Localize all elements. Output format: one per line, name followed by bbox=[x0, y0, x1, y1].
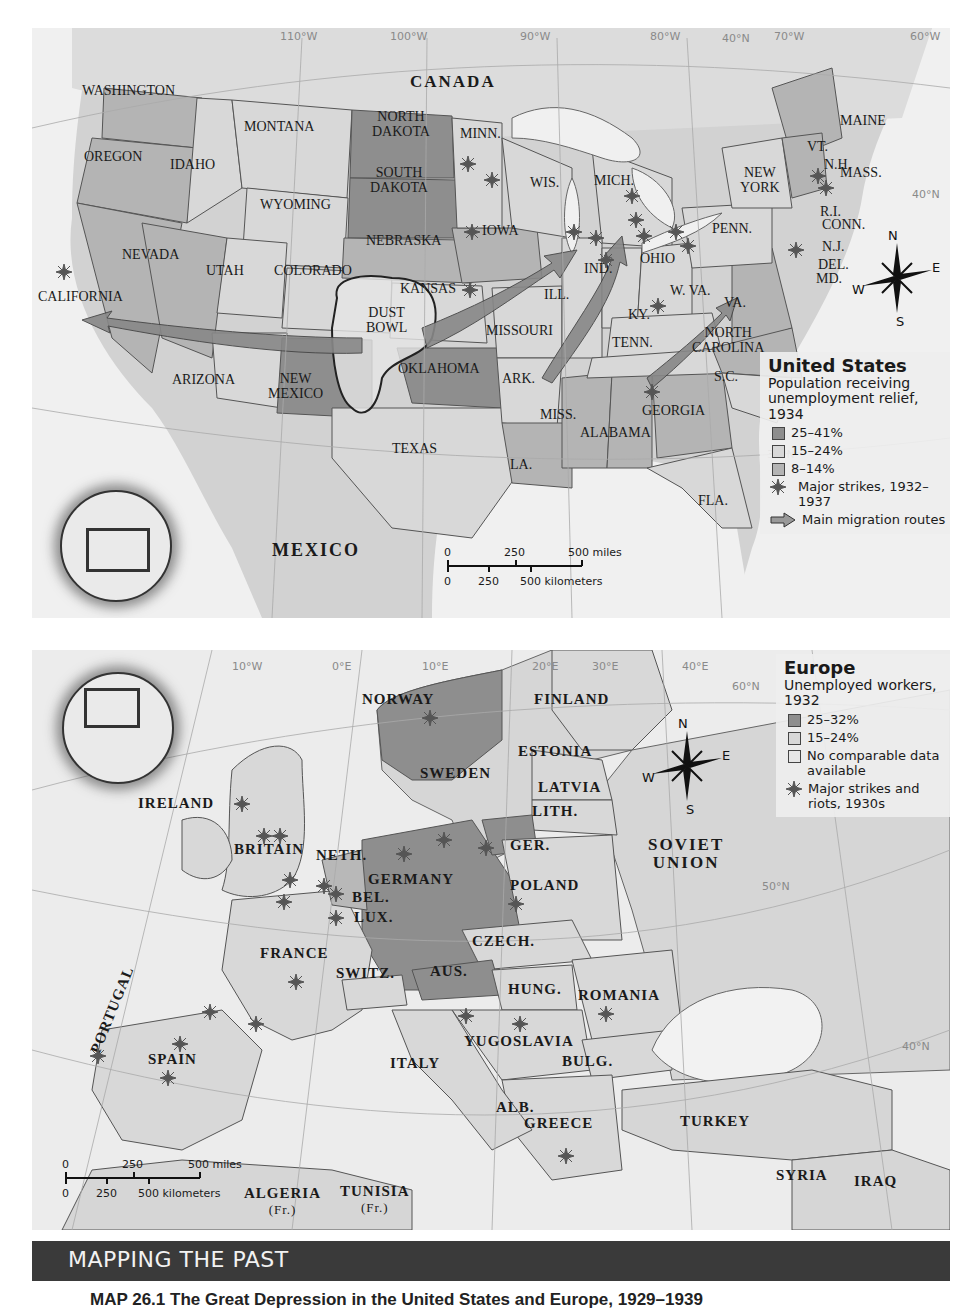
label-neth: NETH. bbox=[316, 848, 367, 864]
label-norway: NORWAY bbox=[362, 692, 434, 708]
europe-map: 10°W 0°E 10°E 20°E 30°E 40°E 60°N 50°N 4… bbox=[32, 650, 950, 1230]
compass-rose-icon: N S E W bbox=[852, 228, 942, 328]
label-czech: CZECH. bbox=[472, 934, 535, 950]
strike-icon bbox=[628, 212, 644, 228]
grid-label: 20°E bbox=[532, 660, 558, 673]
strike-icon bbox=[786, 781, 802, 797]
label-ger-east: GER. bbox=[510, 838, 550, 854]
strike-icon bbox=[788, 242, 804, 258]
banner-title: MAPPING THE PAST bbox=[68, 1247, 289, 1272]
migration-arrow-icon bbox=[770, 512, 796, 528]
legend-item: 8–14% bbox=[768, 461, 950, 476]
legend-item: 15–24% bbox=[784, 730, 944, 745]
label-w-va: W. VA. bbox=[670, 284, 711, 299]
strike-icon bbox=[172, 1036, 188, 1052]
label-penn: PENN. bbox=[712, 222, 752, 237]
label-romania: ROMANIA bbox=[578, 988, 660, 1004]
strike-icon bbox=[566, 224, 582, 240]
swatch-no-data bbox=[788, 750, 801, 763]
swatch-low bbox=[772, 463, 785, 476]
label-greece: GREECE bbox=[524, 1116, 593, 1132]
compass-rose-icon: N S E W bbox=[642, 716, 732, 816]
grid-label: 40°N bbox=[912, 188, 940, 201]
label-south-dakota: SOUTHDAKOTA bbox=[370, 166, 428, 195]
strike-icon bbox=[624, 188, 640, 204]
swatch-mid bbox=[788, 732, 801, 745]
strike-icon bbox=[598, 1006, 614, 1022]
map-caption: MAP 26.1 The Great Depression in the Uni… bbox=[90, 1290, 970, 1308]
label-georgia: GEORGIA bbox=[642, 404, 705, 419]
label-texas: TEXAS bbox=[392, 442, 437, 457]
strike-icon bbox=[512, 1016, 528, 1032]
strike-icon bbox=[282, 872, 298, 888]
strike-icon bbox=[202, 1004, 218, 1020]
label-ireland: IRELAND bbox=[138, 796, 214, 812]
svg-text:W: W bbox=[852, 282, 865, 297]
label-miss: MISS. bbox=[540, 408, 576, 423]
label-wis: WIS. bbox=[530, 176, 559, 191]
label-hung: HUNG. bbox=[508, 982, 562, 998]
legend-item: No comparable data available bbox=[784, 748, 944, 778]
swatch-high bbox=[788, 714, 801, 727]
label-germany: GERMANY bbox=[368, 872, 454, 888]
strike-icon bbox=[770, 479, 786, 495]
label-nevada: NEVADA bbox=[122, 248, 179, 263]
strike-icon bbox=[288, 974, 304, 990]
svg-text:W: W bbox=[642, 770, 655, 785]
label-aus: AUS. bbox=[430, 964, 468, 980]
label-france: FRANCE bbox=[260, 946, 329, 962]
label-kansas: KANSAS bbox=[400, 282, 456, 297]
label-latvia: LATVIA bbox=[538, 780, 601, 796]
svg-text:S: S bbox=[896, 314, 904, 328]
label-wyoming: WYOMING bbox=[260, 198, 331, 213]
inset-globe-europe bbox=[62, 672, 174, 784]
scale-bar: 0 250 500 miles 0 250 500 kilometers bbox=[62, 1158, 252, 1208]
strike-icon bbox=[256, 828, 272, 844]
strike-icon bbox=[90, 1048, 106, 1064]
label-bel: BEL. bbox=[352, 890, 390, 906]
scale-bar: 0 250 500 miles 0 250 500 kilometers bbox=[444, 546, 624, 596]
grid-label: 0°E bbox=[332, 660, 351, 673]
label-bulg: BULG. bbox=[562, 1054, 613, 1070]
label-sweden: SWEDEN bbox=[420, 766, 491, 782]
label-finland: FINLAND bbox=[534, 692, 609, 708]
label-fla: FLA. bbox=[698, 494, 728, 509]
label-washington: WASHINGTON bbox=[82, 84, 175, 99]
label-vt: VT. bbox=[807, 140, 828, 155]
label-missouri: MISSOURI bbox=[486, 324, 553, 339]
label-ark: ARK. bbox=[502, 372, 535, 387]
strike-icon bbox=[818, 180, 834, 196]
legend-item: 15–24% bbox=[768, 443, 950, 458]
legend-subtitle: Unemployed workers, 1932 bbox=[784, 678, 944, 709]
label-alb: ALB. bbox=[496, 1100, 535, 1116]
label-md: MD. bbox=[816, 272, 842, 287]
grid-label: 50°N bbox=[762, 880, 790, 893]
label-va: VA. bbox=[724, 296, 746, 311]
label-sc: S.C. bbox=[714, 370, 738, 385]
inset-frame bbox=[86, 528, 150, 572]
label-arizona: ARIZONA bbox=[172, 373, 235, 388]
label-oregon: OREGON bbox=[84, 150, 142, 165]
label-oklahoma: OKLAHOMA bbox=[398, 362, 480, 377]
label-mass: MASS. bbox=[840, 166, 882, 181]
label-poland: POLAND bbox=[510, 878, 579, 894]
label-new-york: NEWYORK bbox=[740, 166, 780, 195]
svg-text:E: E bbox=[722, 748, 730, 763]
label-estonia: ESTONIA bbox=[518, 744, 592, 760]
svg-text:N: N bbox=[888, 228, 898, 243]
label-italy: ITALY bbox=[390, 1056, 440, 1072]
strike-icon bbox=[328, 910, 344, 926]
strike-icon bbox=[636, 228, 652, 244]
label-nebraska: NEBRASKA bbox=[366, 234, 441, 249]
label-ohio: OHIO bbox=[640, 252, 675, 267]
grid-label: 40°N bbox=[902, 1040, 930, 1053]
label-canada: CANADA bbox=[410, 73, 496, 91]
strike-icon bbox=[462, 282, 478, 298]
grid-label: 70°W bbox=[774, 30, 804, 43]
label-alabama: ALABAMA bbox=[580, 426, 651, 441]
grid-label: 100°W bbox=[390, 30, 427, 43]
label-mich: MICH. bbox=[594, 174, 634, 189]
label-ill: ILL. bbox=[544, 288, 569, 303]
strike-icon bbox=[458, 1008, 474, 1024]
inset-frame bbox=[84, 688, 140, 728]
